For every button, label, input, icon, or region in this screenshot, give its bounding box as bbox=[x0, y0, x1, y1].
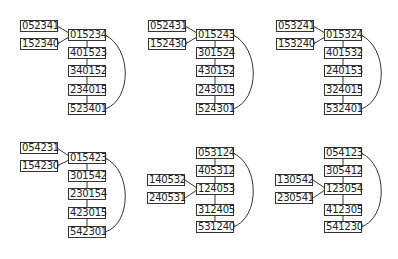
side-node: 054231 bbox=[20, 142, 58, 154]
chain-node: 015423 bbox=[68, 152, 106, 164]
chain-node: 243015 bbox=[196, 84, 234, 96]
chain-node: 053124 bbox=[196, 147, 234, 159]
chain-node: 015324 bbox=[324, 29, 362, 41]
chain-node: 240153 bbox=[324, 65, 362, 77]
chain-node: 324015 bbox=[324, 84, 362, 96]
chain-node: 531240 bbox=[196, 221, 234, 233]
chain-node: 401532 bbox=[324, 47, 362, 59]
side-node: 130542 bbox=[275, 174, 313, 186]
side-node: 154230 bbox=[20, 160, 58, 172]
side-node: 140532 bbox=[147, 174, 185, 186]
chain-node: 015234 bbox=[68, 29, 106, 41]
side-node: 153240 bbox=[276, 38, 314, 50]
side-node: 152430 bbox=[148, 38, 186, 50]
side-node: 052341 bbox=[20, 20, 58, 32]
side-node: 053241 bbox=[276, 20, 314, 32]
chain-node: 542301 bbox=[68, 226, 106, 238]
chain-node: 532401 bbox=[324, 103, 362, 115]
side-node: 230541 bbox=[275, 192, 313, 204]
chain-node: 124053 bbox=[196, 183, 234, 195]
chain-node: 423015 bbox=[68, 207, 106, 219]
chain-node: 230154 bbox=[68, 188, 106, 200]
chain-node: 340152 bbox=[68, 65, 106, 77]
chain-node: 312405 bbox=[196, 204, 234, 216]
chain-node: 015243 bbox=[196, 29, 234, 41]
chain-node: 305412 bbox=[324, 165, 362, 177]
chain-node: 301524 bbox=[196, 47, 234, 59]
chain-node: 054123 bbox=[324, 147, 362, 159]
chain-node: 541230 bbox=[324, 221, 362, 233]
side-node: 052431 bbox=[148, 20, 186, 32]
side-node: 152340 bbox=[20, 38, 58, 50]
chain-node: 523401 bbox=[68, 103, 106, 115]
chain-node: 412305 bbox=[324, 204, 362, 216]
chain-node: 401523 bbox=[68, 47, 106, 59]
chain-node: 301542 bbox=[68, 170, 106, 182]
chain-node: 430152 bbox=[196, 65, 234, 77]
chain-node: 405312 bbox=[196, 165, 234, 177]
chain-node: 524301 bbox=[196, 103, 234, 115]
side-node: 240531 bbox=[147, 192, 185, 204]
chain-node: 123054 bbox=[324, 183, 362, 195]
chain-node: 234015 bbox=[68, 84, 106, 96]
